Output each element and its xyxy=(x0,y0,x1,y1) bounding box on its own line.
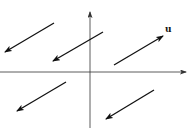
vector-arrow-bottom-left xyxy=(17,82,66,111)
diagram-canvas: u xyxy=(0,0,195,134)
vector-u-label: u xyxy=(165,25,172,34)
vector-arrow-top-middle xyxy=(53,32,103,61)
vector-arrow-bottom-right xyxy=(106,90,154,119)
diagram-svg xyxy=(0,0,195,134)
vector-group xyxy=(5,23,163,119)
vector-arrow-u xyxy=(114,36,163,65)
vector-arrow-top-left xyxy=(5,23,54,52)
